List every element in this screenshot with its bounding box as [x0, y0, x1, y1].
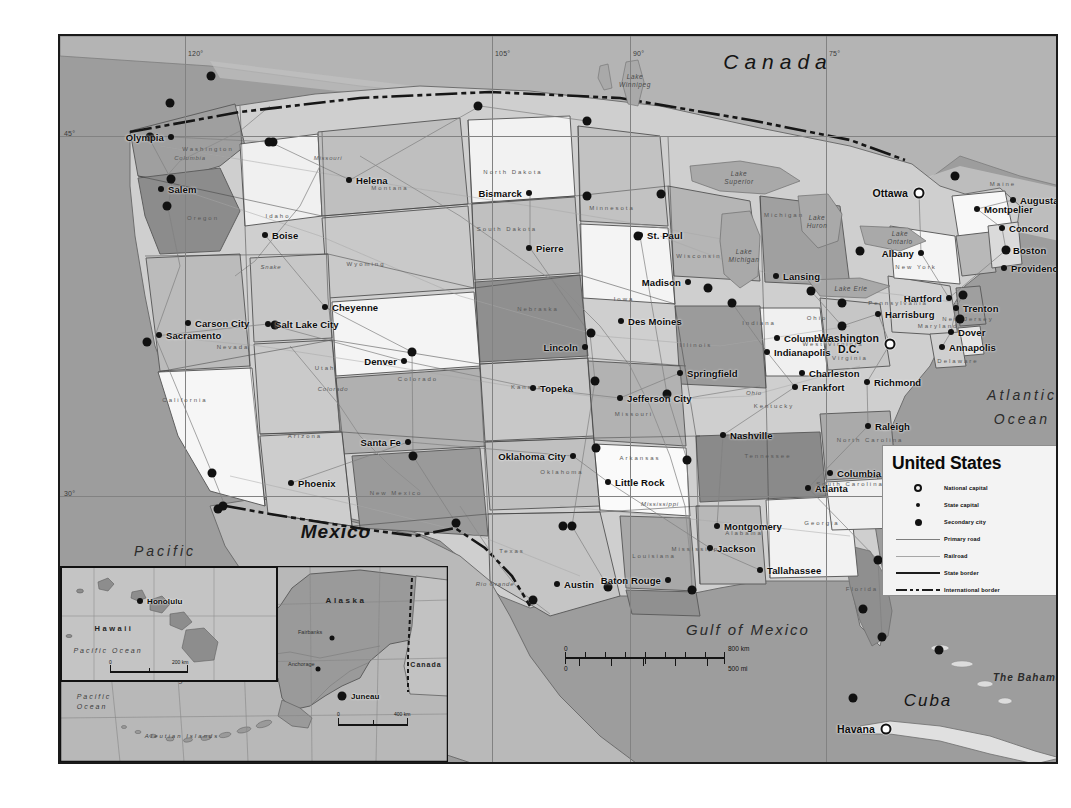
secondary-city-fargo[interactable] [583, 192, 592, 201]
city-marker-trenton[interactable] [953, 305, 959, 311]
city-marker-washington-dc[interactable] [885, 339, 896, 350]
state-label-georgia: Georgia [804, 520, 839, 526]
secondary-city-chicago[interactable] [728, 299, 737, 308]
city-marker-little-rock[interactable] [605, 479, 611, 485]
secondary-city-winnipeg[interactable] [583, 117, 592, 126]
city-marker-frankfort[interactable] [792, 384, 798, 390]
secondary-city-tijuana[interactable] [214, 505, 223, 514]
city-marker-tallahassee[interactable] [757, 567, 763, 573]
secondary-city-montreal[interactable] [951, 172, 960, 181]
city-marker-topeka[interactable] [530, 385, 536, 391]
city-marker-boston[interactable] [1002, 246, 1011, 255]
secondary-city-toronto[interactable] [856, 247, 865, 256]
state-label-delaware: Delaware [937, 358, 978, 364]
city-marker-des-moines[interactable] [618, 318, 624, 324]
city-marker-pierre[interactable] [526, 245, 532, 251]
city-marker-montpelier[interactable] [974, 206, 980, 212]
secondary-city-vancouver[interactable] [166, 99, 175, 108]
honolulu-marker[interactable] [137, 598, 143, 604]
city-marker-nashville[interactable] [720, 432, 726, 438]
secondary-city-regina[interactable] [474, 102, 483, 111]
secondary-city-san-antonio[interactable] [529, 596, 538, 605]
secondary-city-philadelphia[interactable] [956, 315, 965, 324]
city-marker-augusta[interactable] [1010, 197, 1016, 203]
city-marker-jackson[interactable] [707, 545, 713, 551]
city-marker-columbus[interactable] [774, 335, 780, 341]
city-marker-concord[interactable] [999, 225, 1005, 231]
secondary-city-los-angeles[interactable] [208, 469, 217, 478]
secondary-city-milwaukee[interactable] [704, 284, 713, 293]
secondary-city-denver-sec[interactable] [408, 348, 417, 357]
city-label-jackson: Jackson [717, 543, 756, 554]
city-marker-denver[interactable] [401, 358, 407, 364]
city-marker-lincoln[interactable] [582, 344, 588, 350]
city-marker-atlanta[interactable] [805, 485, 811, 491]
secondary-city-detroit[interactable] [807, 287, 816, 296]
city-marker-lansing[interactable] [773, 273, 779, 279]
secondary-city-memphis[interactable] [683, 456, 692, 465]
secondary-city-new-york[interactable] [959, 291, 968, 300]
city-marker-phoenix[interactable] [288, 480, 294, 486]
secondary-city-duluth[interactable] [657, 190, 666, 199]
city-marker-ottawa[interactable] [914, 188, 925, 199]
secondary-city-miami[interactable] [878, 633, 887, 642]
city-marker-charleston[interactable] [799, 370, 805, 376]
city-marker-providence[interactable] [1001, 265, 1007, 271]
secondary-city-kansas-city[interactable] [591, 377, 600, 386]
state-capital-icon [764, 349, 770, 355]
city-marker-salem[interactable] [158, 186, 164, 192]
city-marker-richmond[interactable] [864, 379, 870, 385]
secondary-city-calgary[interactable] [265, 138, 274, 147]
secondary-city-el-paso[interactable] [452, 519, 461, 528]
secondary-city-spokane[interactable] [207, 72, 216, 81]
city-marker-bismarck[interactable] [526, 190, 532, 196]
city-marker-boise[interactable] [262, 232, 268, 238]
secondary-city-new-orleans[interactable] [688, 586, 697, 595]
state-label-new-jersey: New Jersey [942, 316, 993, 322]
city-marker-annapolis[interactable] [939, 344, 945, 350]
city-marker-columbia[interactable] [827, 470, 833, 476]
city-marker-carson-city[interactable] [185, 320, 191, 326]
secondary-city-nassau[interactable] [935, 646, 944, 655]
city-marker-albany[interactable] [918, 250, 924, 256]
city-marker-montgomery[interactable] [714, 523, 720, 529]
state-label-north-carolina: North Carolina [837, 437, 904, 443]
secondary-city-cleveland[interactable] [838, 299, 847, 308]
city-marker-austin[interactable] [554, 581, 560, 587]
city-marker-olympia[interactable] [168, 134, 174, 140]
city-marker-harrisburg[interactable] [875, 311, 881, 317]
hawaii-inset[interactable]: Honolulu Hawaii Pacific Ocean 0 200 km [60, 566, 278, 682]
city-marker-st-paul[interactable] [637, 232, 643, 238]
secondary-city-omaha[interactable] [587, 329, 596, 338]
fairbanks-marker[interactable] [330, 636, 335, 641]
city-marker-cheyenne[interactable] [322, 304, 328, 310]
city-marker-baton-rouge[interactable] [665, 577, 671, 583]
city-marker-havana[interactable] [881, 724, 892, 735]
city-label-salt-lake-city: Salt Lake City [275, 319, 339, 330]
map-legend[interactable]: United States National capitalState capi… [882, 445, 1058, 596]
secondary-city-pittsburgh[interactable] [838, 322, 847, 331]
city-marker-jefferson-city[interactable] [617, 395, 623, 401]
secondary-city-fort-worth[interactable] [559, 522, 568, 531]
anchorage-marker[interactable] [316, 667, 321, 672]
secondary-city-key-west[interactable] [849, 694, 858, 703]
secondary-city-tampa[interactable] [859, 605, 868, 614]
city-marker-sacramento[interactable] [156, 332, 162, 338]
juneau-marker[interactable] [338, 692, 347, 701]
city-marker-dover[interactable] [948, 329, 954, 335]
city-marker-oklahoma-city[interactable] [570, 453, 576, 459]
secondary-city-san-francisco[interactable] [143, 338, 152, 347]
secondary-city-eugene[interactable] [163, 202, 172, 211]
city-marker-santa-fe[interactable] [405, 439, 411, 445]
city-marker-indianapolis[interactable] [764, 349, 770, 355]
secondary-city-dallas[interactable] [568, 522, 577, 531]
secondary-city-portland[interactable] [167, 175, 176, 184]
city-marker-helena[interactable] [346, 177, 352, 183]
city-marker-salt-lake-city[interactable] [265, 321, 271, 327]
secondary-city-tulsa[interactable] [592, 444, 601, 453]
city-marker-madison[interactable] [685, 279, 691, 285]
city-marker-hartford[interactable] [946, 295, 952, 301]
city-marker-raleigh[interactable] [865, 423, 871, 429]
secondary-city-albuquerque[interactable] [409, 452, 418, 461]
city-marker-springfield[interactable] [677, 370, 683, 376]
